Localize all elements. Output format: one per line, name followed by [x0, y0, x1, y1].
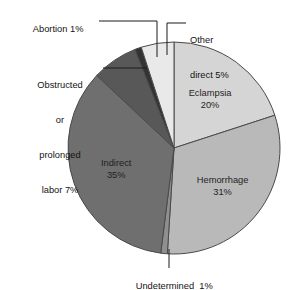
obstructed-label-line3: prolonged: [14, 150, 106, 162]
callout-label-abortion: Abortion 1%: [23, 12, 101, 47]
undetermined-label-text: Undetermined 1%: [136, 281, 213, 290]
pie-chart: Eclampsia20%Hemorrhage31%Indirect35% Abo…: [0, 0, 296, 290]
abortion-label-text: Abortion 1%: [33, 24, 84, 34]
slice-label-indirect: 35%: [107, 170, 126, 180]
other-direct-label-line2: direct 5%: [190, 70, 280, 82]
slice-label-hemorrhage: Hemorrhage: [197, 175, 249, 185]
callout-label-other-direct: Other direct 5%: [190, 12, 280, 105]
slice-label-hemorrhage: 31%: [213, 187, 232, 197]
callout-label-obstructed: Obstructed or prolonged labor 7%: [14, 57, 106, 219]
other-direct-label-line1: Other: [190, 35, 280, 47]
obstructed-label-line2: or: [14, 115, 106, 127]
obstructed-label-line1: Obstructed: [14, 80, 106, 92]
obstructed-label-line4: labor 7%: [14, 185, 106, 197]
callout-label-undetermined: Undetermined 1%: [104, 269, 234, 290]
